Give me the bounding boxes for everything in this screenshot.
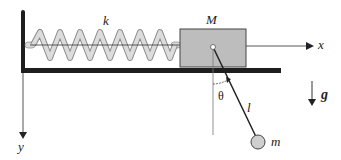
y-axis-label: y — [16, 139, 24, 154]
wall-vertical — [21, 10, 25, 72]
spring-pendulum-diagram: y k M x θ l m g — [0, 0, 341, 160]
gravity-arrow — [308, 81, 316, 106]
length-label: l — [247, 100, 251, 115]
floor — [21, 68, 281, 73]
block-mass-label: M — [205, 12, 218, 27]
gravity-label: g — [320, 87, 328, 102]
angle-label: θ — [218, 89, 224, 103]
bob-mass-label: m — [271, 134, 280, 149]
pivot — [211, 45, 216, 50]
x-axis — [246, 42, 314, 50]
x-axis-label: x — [317, 37, 324, 52]
spring-constant-label: k — [103, 13, 109, 28]
pendulum-bob — [251, 135, 265, 149]
y-axis — [19, 73, 27, 139]
angle-arc — [213, 77, 231, 84]
spring — [30, 32, 180, 58]
